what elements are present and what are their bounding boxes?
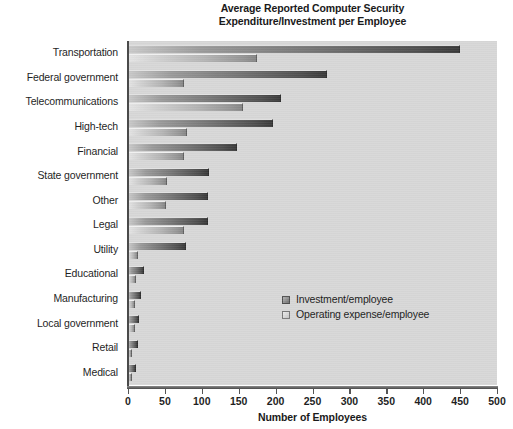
y-axis-tick-label: Transportation	[0, 46, 123, 58]
y-axis-tick-label: Medical	[0, 366, 123, 378]
y-axis-tick-label: High-tech	[0, 120, 123, 132]
y-axis-tick-label: Financial	[0, 145, 123, 157]
x-axis-tick-label: 400	[414, 395, 432, 407]
y-axis-tick-label: State government	[0, 169, 123, 181]
x-axis-tick	[386, 389, 387, 394]
x-axis-tick-label: 100	[193, 395, 211, 407]
x-axis-tick-label: 500	[488, 395, 506, 407]
x-axis-tick	[460, 389, 461, 394]
x-axis-tick	[128, 389, 129, 394]
x-axis-tick-label: 0	[125, 395, 131, 407]
x-axis-tick-label: 450	[451, 395, 469, 407]
y-axis-tick-label: Utility	[0, 243, 123, 255]
y-axis-tick-label: Local government	[0, 317, 123, 329]
x-axis-tick-label: 250	[304, 395, 322, 407]
x-axis-title: Number of Employees	[128, 411, 497, 423]
x-axis-tick-label: 350	[378, 395, 396, 407]
y-axis-tick-label: Other	[0, 194, 123, 206]
chart-title: Average Reported Computer Security Expen…	[128, 2, 497, 28]
x-axis-tick	[239, 389, 240, 394]
x-axis-tick	[497, 389, 498, 394]
chart-title-line-1: Average Reported Computer Security	[128, 2, 497, 15]
x-axis-tick	[165, 389, 166, 394]
chart-container: Average Reported Computer Security Expen…	[0, 0, 513, 429]
y-axis-labels: TransportationFederal governmentTelecomm…	[0, 41, 513, 385]
x-axis-tick-label: 150	[230, 395, 248, 407]
y-axis-tick-label: Federal government	[0, 71, 123, 83]
x-axis-tick	[313, 389, 314, 394]
x-axis-tick-label: 200	[267, 395, 285, 407]
x-axis-tick-label: 300	[341, 395, 359, 407]
x-axis-tick	[349, 389, 350, 394]
y-axis-tick-label: Retail	[0, 341, 123, 353]
x-axis-tick	[423, 389, 424, 394]
y-axis-tick-label: Legal	[0, 218, 123, 230]
x-axis-tick	[276, 389, 277, 394]
y-axis-tick-label: Manufacturing	[0, 292, 123, 304]
y-axis-tick-label: Telecommunications	[0, 95, 123, 107]
x-axis-tick-label: 50	[159, 395, 171, 407]
chart-title-line-2: Expenditure/Investment per Employee	[128, 15, 497, 28]
y-axis-tick-label: Educational	[0, 267, 123, 279]
x-axis-tick	[202, 389, 203, 394]
